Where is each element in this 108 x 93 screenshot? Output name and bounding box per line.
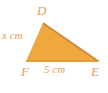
triangle-figure: D F E x cm 5 cm (0, 0, 108, 93)
triangle-fill (27, 24, 98, 62)
vertex-label-d: D (37, 4, 46, 17)
side-length-label-fe: 5 cm (44, 64, 65, 75)
side-length-label-df: x cm (2, 30, 22, 41)
vertex-label-e: E (91, 65, 99, 78)
triangle-shape (0, 0, 108, 93)
vertex-label-f: F (21, 65, 29, 78)
